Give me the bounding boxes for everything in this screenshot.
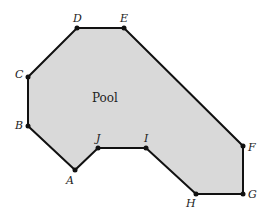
vertex-label-h: H [185, 197, 196, 210]
vertex-h [194, 192, 199, 197]
pool-polygon [28, 28, 243, 194]
vertex-label-j: J [94, 132, 101, 145]
vertex-label-a: A [65, 174, 74, 187]
vertex-label-i: I [143, 132, 149, 145]
vertex-label-d: D [72, 12, 82, 25]
vertex-e [122, 26, 127, 31]
vertex-label-c: C [15, 68, 24, 81]
vertex-label-b: B [14, 119, 23, 132]
vertex-label-e: E [119, 12, 128, 25]
vertex-a [73, 168, 78, 173]
vertex-g [241, 192, 246, 197]
vertex-f [241, 144, 246, 149]
vertex-d [75, 26, 80, 31]
vertex-j [96, 146, 101, 151]
pool-label: Pool [92, 91, 118, 105]
vertex-label-g: G [248, 188, 257, 201]
vertex-b [26, 124, 31, 129]
vertex-i [144, 146, 149, 151]
vertex-label-f: F [247, 141, 256, 154]
vertex-c [26, 75, 31, 80]
pool-diagram: ABCDEFGHIJ Pool [0, 0, 267, 210]
